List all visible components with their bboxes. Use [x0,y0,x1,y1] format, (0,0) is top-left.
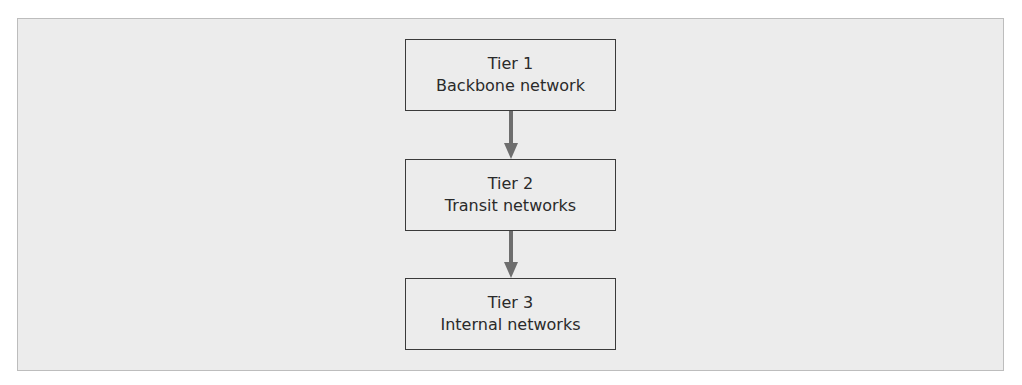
tier2-title: Tier 2 [488,173,533,195]
tier2-box: Tier 2 Transit networks [405,159,616,231]
tier3-subtitle: Internal networks [440,314,580,336]
tier1-box: Tier 1 Backbone network [405,39,616,111]
tier1-subtitle: Backbone network [436,75,585,97]
tier3-box: Tier 3 Internal networks [405,278,616,350]
arrow-down-icon [504,111,518,159]
arrow-down-icon [504,231,518,278]
tier1-title: Tier 1 [488,53,533,75]
tier2-subtitle: Transit networks [445,195,576,217]
tier3-title: Tier 3 [488,292,533,314]
